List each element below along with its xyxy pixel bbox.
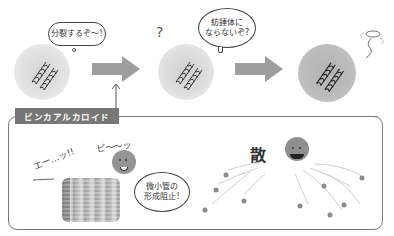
microtubule-tube <box>62 178 120 222</box>
arrow-up-icon <box>110 82 122 110</box>
face-eyes <box>292 147 294 149</box>
face-mouth <box>290 154 304 159</box>
speech-bubble-divide: 分裂するぞ〜! <box>48 22 106 46</box>
face-eyes <box>125 159 127 161</box>
fragment <box>328 213 333 218</box>
scattered-drug-molecule <box>285 137 309 161</box>
cell-2 <box>158 44 214 100</box>
chromosome-icon <box>14 44 70 100</box>
scatter-trails <box>200 160 380 220</box>
halo-spirit-icon <box>358 26 388 64</box>
fragment <box>203 208 208 213</box>
bubble-text-line1: 微小管の <box>146 182 178 192</box>
fragment <box>242 199 247 204</box>
bubble-tail <box>218 47 223 53</box>
chromosome-icon <box>298 44 356 102</box>
exclaim-underline <box>32 176 56 182</box>
fragment <box>298 204 303 209</box>
bubble-tail-dot <box>72 48 76 52</box>
speech-bubble-inhibit: 微小管の 形成阻止! <box>134 172 190 212</box>
arrow-right-icon <box>92 56 142 82</box>
arrow-right-icon <box>235 56 285 82</box>
bubble-text-line2: ならないぞ? <box>205 28 249 38</box>
face-eyes <box>299 147 301 149</box>
fragment <box>224 173 229 178</box>
cell-3-dead <box>298 44 356 102</box>
drug-label: ビンカアルカロイド <box>15 108 119 124</box>
bubble-text: 分裂するぞ〜! <box>51 29 102 39</box>
chromosome-icon <box>158 44 214 100</box>
fragment <box>322 184 327 189</box>
fragment <box>214 188 219 193</box>
tube-stripes <box>62 178 120 222</box>
face-eyes <box>119 159 121 161</box>
bubble-text-line1: 紡錘体に <box>211 18 243 28</box>
bubble-text-line2: 形成阻止! <box>144 192 179 202</box>
cell-1 <box>14 44 70 100</box>
face-mouth <box>120 167 128 171</box>
speech-bubble-spindle: 紡錘体に ならないぞ? <box>198 8 256 48</box>
fragment <box>360 176 365 181</box>
question-mark: ? <box>156 24 163 40</box>
drug-molecule-character <box>112 150 136 174</box>
fragment <box>342 203 347 208</box>
